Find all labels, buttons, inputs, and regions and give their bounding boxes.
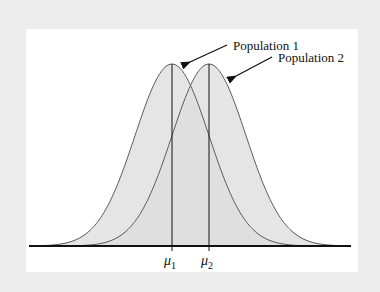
mu1-symbol: μ <box>164 253 171 268</box>
population-2-label: Population 2 <box>278 51 344 64</box>
distribution-fill-2 <box>29 64 351 246</box>
mu2-tick-label: μ2 <box>201 254 213 271</box>
mu2-symbol: μ <box>201 253 208 268</box>
mu1-tick-label: μ1 <box>164 254 176 271</box>
population-2-arrow <box>236 57 272 76</box>
mu1-subscript: 1 <box>171 260 176 271</box>
normal-distributions-diagram <box>0 0 380 292</box>
mu2-subscript: 2 <box>208 260 213 271</box>
population-1-arrow <box>190 45 227 62</box>
